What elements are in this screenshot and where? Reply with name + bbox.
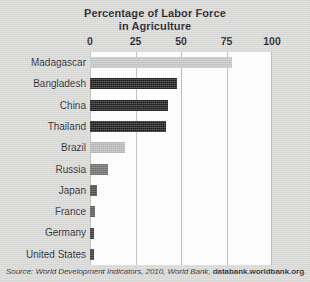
bar-row[interactable] <box>90 222 272 243</box>
category-label-united-states: United States <box>26 244 86 265</box>
source-note: Source: World Development Indicators, 20… <box>6 267 306 276</box>
x-tick-label-25: 25 <box>130 35 142 47</box>
bar-row[interactable] <box>90 180 272 201</box>
x-tick-label-50: 50 <box>175 35 187 47</box>
bar-row[interactable] <box>90 52 272 73</box>
category-label-japan: Japan <box>59 180 86 201</box>
bar-japan[interactable] <box>90 185 97 196</box>
bar-row[interactable] <box>90 137 272 158</box>
category-label-germany: Germany <box>45 222 86 243</box>
plot-area <box>90 52 272 265</box>
source-note-suffix: . <box>304 267 306 276</box>
bar-madagascar[interactable] <box>90 57 232 68</box>
category-label-russia: Russia <box>55 159 86 180</box>
chart-figure: Percentage of Labor Force in Agriculture… <box>0 0 310 282</box>
x-tick-label-75: 75 <box>221 35 233 47</box>
category-label-france: France <box>55 201 86 222</box>
bar-united-states[interactable] <box>90 249 94 260</box>
bar-row[interactable] <box>90 244 272 265</box>
bar-germany[interactable] <box>90 228 94 239</box>
bar-row[interactable] <box>90 95 272 116</box>
bar-row[interactable] <box>90 201 272 222</box>
source-note-prefix: Source: World Development Indicators, 20… <box>6 267 213 276</box>
chart-title: Percentage of Labor Force in Agriculture <box>0 7 310 33</box>
chart-title-line-2: in Agriculture <box>0 20 310 33</box>
bar-row[interactable] <box>90 158 272 179</box>
category-label-china: China <box>60 95 86 116</box>
category-label-madagascar: Madagascar <box>31 52 86 73</box>
category-label-brazil: Brazil <box>61 137 86 158</box>
chart-title-line-1: Percentage of Labor Force <box>84 7 226 19</box>
category-labels: MadagascarBangladeshChinaThailandBrazilR… <box>0 52 86 265</box>
bar-russia[interactable] <box>90 164 108 175</box>
bar-china[interactable] <box>90 100 168 111</box>
category-label-bangladesh: Bangladesh <box>33 73 86 94</box>
source-note-link[interactable]: databank.worldbank.org <box>213 267 304 276</box>
x-tick-label-0: 0 <box>87 35 93 47</box>
category-label-thailand: Thailand <box>48 116 86 137</box>
bar-brazil[interactable] <box>90 142 125 153</box>
bar-thailand[interactable] <box>90 121 166 132</box>
bar-rows <box>90 52 272 265</box>
bar-bangladesh[interactable] <box>90 78 177 89</box>
bar-row[interactable] <box>90 116 272 137</box>
bar-row[interactable] <box>90 73 272 94</box>
x-axis-tick-labels: 0255075100 <box>0 35 310 49</box>
x-tick-label-100: 100 <box>263 35 281 47</box>
bar-france[interactable] <box>90 206 95 217</box>
